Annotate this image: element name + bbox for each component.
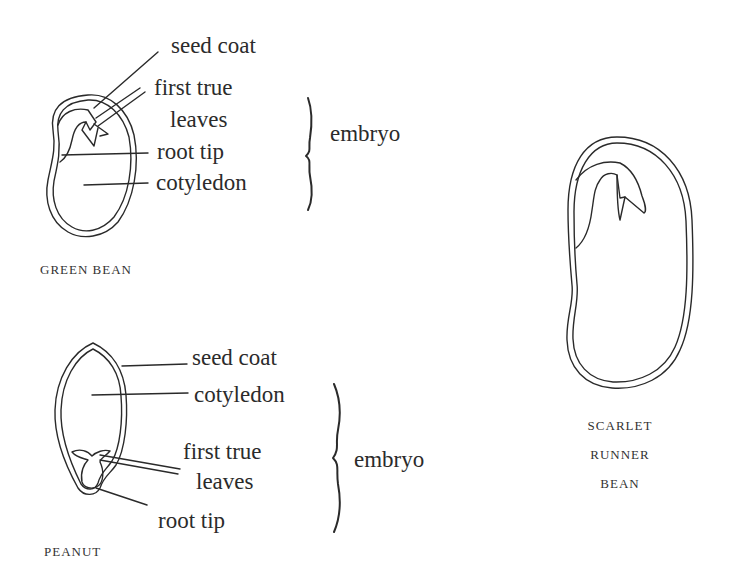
peanut-label-first-true: first true xyxy=(183,440,262,463)
green-bean-label-leaves: leaves xyxy=(170,108,227,131)
peanut-label-embryo: embryo xyxy=(354,448,424,471)
peanut-label-seed-coat: seed coat xyxy=(192,346,277,369)
caption-line-1: SCARLET xyxy=(570,411,670,440)
peanut-label-leaves: leaves xyxy=(196,470,253,493)
scarlet-runner-bean-caption: SCARLET RUNNER BEAN xyxy=(570,411,670,498)
scarlet-runner-bean-drawing xyxy=(567,137,693,388)
caption-line-3: BEAN xyxy=(570,469,670,498)
green-bean-label-root-tip: root tip xyxy=(157,140,224,163)
caption-line-2: RUNNER xyxy=(570,440,670,469)
embryo-bracket-1 xyxy=(306,98,312,210)
green-bean-caption: GREEN BEAN xyxy=(40,263,132,276)
embryo-bracket-2 xyxy=(333,384,340,532)
green-bean-label-cotyledon: cotyledon xyxy=(156,171,247,194)
peanut-caption: PEANUT xyxy=(44,545,101,558)
green-bean-drawing xyxy=(47,52,158,237)
peanut-label-cotyledon: cotyledon xyxy=(194,383,285,406)
green-bean-label-first-true: first true xyxy=(154,76,233,99)
green-bean-label-embryo: embryo xyxy=(330,122,400,145)
green-bean-label-seed-coat: seed coat xyxy=(171,34,256,57)
peanut-drawing xyxy=(55,343,188,505)
peanut-label-root-tip: root tip xyxy=(158,509,225,532)
